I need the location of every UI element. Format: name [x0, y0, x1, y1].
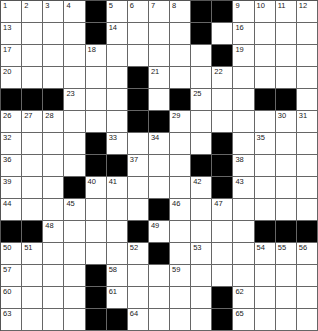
grid-cell[interactable]: 65: [233, 309, 254, 331]
grid-cell[interactable]: [86, 111, 107, 133]
grid-cell[interactable]: [43, 243, 64, 265]
grid-cell[interactable]: 51: [22, 243, 43, 265]
grid-cell[interactable]: [233, 89, 254, 111]
grid-cell[interactable]: 60: [1, 287, 22, 309]
grid-cell[interactable]: 45: [64, 199, 85, 221]
grid-cell[interactable]: [255, 287, 276, 309]
grid-cell[interactable]: [22, 133, 43, 155]
grid-cell[interactable]: 47: [212, 199, 233, 221]
grid-cell[interactable]: [43, 133, 64, 155]
grid-cell[interactable]: [255, 67, 276, 89]
grid-cell[interactable]: 1: [1, 1, 22, 23]
grid-cell[interactable]: [43, 177, 64, 199]
grid-cell[interactable]: 42: [191, 177, 212, 199]
grid-cell[interactable]: [128, 287, 149, 309]
grid-cell[interactable]: 35: [255, 133, 276, 155]
grid-cell[interactable]: [170, 309, 191, 331]
grid-cell[interactable]: [191, 45, 212, 67]
grid-cell[interactable]: [22, 45, 43, 67]
grid-cell[interactable]: [86, 199, 107, 221]
grid-cell[interactable]: [170, 177, 191, 199]
grid-cell[interactable]: [297, 309, 318, 331]
grid-cell[interactable]: 11: [276, 1, 297, 23]
grid-cell[interactable]: 41: [107, 177, 128, 199]
grid-cell[interactable]: [170, 221, 191, 243]
grid-cell[interactable]: [149, 265, 170, 287]
grid-cell[interactable]: 64: [128, 309, 149, 331]
grid-cell[interactable]: [233, 133, 254, 155]
grid-cell[interactable]: 39: [1, 177, 22, 199]
grid-cell[interactable]: 55: [276, 243, 297, 265]
grid-cell[interactable]: [191, 199, 212, 221]
grid-cell[interactable]: [149, 177, 170, 199]
grid-cell[interactable]: [149, 155, 170, 177]
grid-cell[interactable]: [255, 199, 276, 221]
grid-cell[interactable]: [191, 221, 212, 243]
grid-cell[interactable]: 31: [297, 111, 318, 133]
grid-cell[interactable]: [276, 133, 297, 155]
grid-cell[interactable]: [64, 265, 85, 287]
grid-cell[interactable]: [255, 45, 276, 67]
grid-cell[interactable]: [22, 67, 43, 89]
grid-cell[interactable]: [276, 287, 297, 309]
grid-cell[interactable]: [43, 265, 64, 287]
grid-cell[interactable]: [297, 23, 318, 45]
grid-cell[interactable]: 54: [255, 243, 276, 265]
grid-cell[interactable]: 16: [233, 23, 254, 45]
grid-cell[interactable]: [128, 133, 149, 155]
grid-cell[interactable]: 28: [43, 111, 64, 133]
grid-cell[interactable]: [191, 67, 212, 89]
grid-cell[interactable]: [276, 155, 297, 177]
grid-cell[interactable]: 10: [255, 1, 276, 23]
grid-cell[interactable]: 6: [128, 1, 149, 23]
grid-cell[interactable]: 18: [86, 45, 107, 67]
grid-cell[interactable]: [149, 45, 170, 67]
grid-cell[interactable]: 59: [170, 265, 191, 287]
grid-cell[interactable]: [276, 309, 297, 331]
grid-cell[interactable]: 3: [43, 1, 64, 23]
grid-cell[interactable]: [107, 111, 128, 133]
grid-cell[interactable]: [64, 23, 85, 45]
grid-cell[interactable]: 14: [107, 23, 128, 45]
grid-cell[interactable]: [170, 287, 191, 309]
grid-cell[interactable]: [107, 199, 128, 221]
grid-cell[interactable]: 17: [1, 45, 22, 67]
grid-cell[interactable]: [43, 67, 64, 89]
grid-cell[interactable]: 30: [276, 111, 297, 133]
grid-cell[interactable]: 5: [107, 1, 128, 23]
grid-cell[interactable]: [86, 221, 107, 243]
grid-cell[interactable]: [43, 23, 64, 45]
grid-cell[interactable]: [86, 89, 107, 111]
grid-cell[interactable]: 12: [297, 1, 318, 23]
grid-cell[interactable]: [212, 243, 233, 265]
grid-cell[interactable]: [43, 287, 64, 309]
grid-cell[interactable]: 2: [22, 1, 43, 23]
grid-cell[interactable]: [255, 111, 276, 133]
grid-cell[interactable]: 44: [1, 199, 22, 221]
grid-cell[interactable]: 61: [107, 287, 128, 309]
grid-cell[interactable]: [297, 287, 318, 309]
grid-cell[interactable]: [297, 177, 318, 199]
grid-cell[interactable]: [191, 309, 212, 331]
grid-cell[interactable]: 20: [1, 67, 22, 89]
grid-cell[interactable]: [255, 265, 276, 287]
grid-cell[interactable]: [170, 23, 191, 45]
grid-cell[interactable]: [297, 67, 318, 89]
grid-cell[interactable]: [107, 221, 128, 243]
grid-cell[interactable]: [64, 67, 85, 89]
grid-cell[interactable]: 21: [149, 67, 170, 89]
grid-cell[interactable]: 23: [64, 89, 85, 111]
grid-cell[interactable]: [107, 243, 128, 265]
grid-cell[interactable]: [212, 89, 233, 111]
grid-cell[interactable]: 53: [191, 243, 212, 265]
grid-cell[interactable]: [212, 111, 233, 133]
grid-cell[interactable]: [22, 309, 43, 331]
grid-cell[interactable]: [64, 243, 85, 265]
grid-cell[interactable]: [107, 89, 128, 111]
grid-cell[interactable]: 48: [43, 221, 64, 243]
grid-cell[interactable]: 57: [1, 265, 22, 287]
grid-cell[interactable]: 49: [149, 221, 170, 243]
grid-cell[interactable]: [297, 133, 318, 155]
grid-cell[interactable]: [233, 111, 254, 133]
grid-cell[interactable]: 26: [1, 111, 22, 133]
